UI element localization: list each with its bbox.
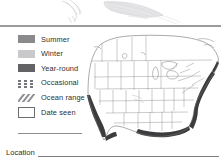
legend-divider	[18, 133, 82, 134]
legend-label-ocean-range: Ocean range	[41, 94, 85, 101]
ocean-range-hatch-icon	[18, 94, 35, 102]
legend-label-date-seen: Date seen	[41, 109, 76, 116]
winter-swatch-icon	[18, 50, 35, 58]
legend-item-summer: Summer	[18, 32, 90, 47]
location-label: Location	[6, 149, 35, 158]
legend-item-ocean-range: Ocean range	[18, 90, 90, 105]
legend-label-summer: Summer	[41, 36, 70, 43]
legend-item-occasional: Occasional	[18, 76, 90, 91]
legend-item-winter: Winter	[18, 47, 90, 62]
occasional-dots-icon	[18, 79, 35, 87]
summer-swatch-icon	[18, 35, 35, 43]
north-america-range-map	[86, 33, 220, 145]
legend-item-year-round: Year-round	[18, 61, 90, 76]
legend-label-year-round: Year-round	[41, 65, 78, 72]
legend: Summer Winter Year-round Occasional Ocea…	[18, 32, 90, 120]
header-divider	[0, 25, 221, 27]
range-map-page: Summer Winter Year-round Occasional Ocea…	[0, 0, 221, 165]
legend-label-winter: Winter	[41, 50, 63, 57]
location-write-line[interactable]	[38, 156, 219, 157]
bird-wing-illustration	[0, 0, 221, 26]
legend-label-occasional: Occasional	[41, 79, 79, 86]
legend-item-date-seen: Date seen	[18, 105, 90, 120]
date-seen-box-icon[interactable]	[18, 107, 35, 118]
location-field[interactable]: Location	[6, 149, 219, 158]
year-round-swatch-icon	[18, 64, 35, 72]
